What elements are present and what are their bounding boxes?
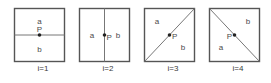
case-caption-4: i=4 [205,64,271,74]
region-label-b-3: b [181,43,186,52]
region-label-a-4: a [219,43,224,52]
square-partition-figure: a b P i=1 a b P i=2 a b P i=3 [0,0,271,83]
region-label-b-1: b [37,45,42,54]
region-label-b-2: b [116,31,121,40]
point-label-4: P [227,32,232,41]
case-panel-4: b a P i=4 [205,0,271,83]
case-caption-2: i=2 [75,64,141,74]
case-diagram-4: b a P [205,0,271,64]
region-label-b-4: b [246,17,251,26]
case-diagram-2: a b P [75,0,141,64]
case-panel-3: a b P i=3 [140,0,206,83]
case-panel-1: a b P i=1 [10,0,76,83]
case-caption-3: i=3 [140,64,206,74]
point-label-3: P [172,32,177,41]
point-marker-3 [168,33,172,37]
region-label-a-2: a [90,31,95,40]
case-diagram-1: a b P [10,0,76,64]
point-marker-4 [233,33,237,37]
case-diagram-3: a b P [140,0,206,64]
case-caption-1: i=1 [10,64,76,74]
case-panel-2: a b P i=2 [75,0,141,83]
point-label-2: P [107,33,112,42]
point-label-1: P [37,25,42,34]
region-label-a-3: a [155,17,160,26]
